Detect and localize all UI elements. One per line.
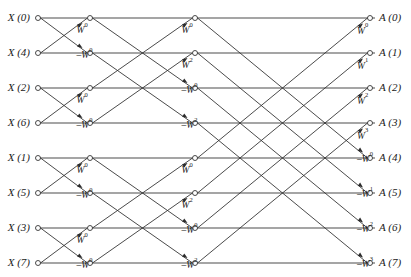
output-label-6: A (6) xyxy=(378,221,401,234)
stage1-node-2 xyxy=(88,86,93,91)
input-node-6 xyxy=(36,226,41,231)
fft-butterfly-diagram: X (0)X (4)X (2)X (6)X (1)X (5)X (3)X (7)… xyxy=(0,0,411,277)
input-node-4 xyxy=(36,156,41,161)
input-label-1: X (4) xyxy=(7,46,31,59)
input-node-7 xyxy=(36,261,41,266)
input-node-0 xyxy=(36,16,41,21)
output-node-0 xyxy=(368,16,373,21)
stage3-weight-label-3: W3 xyxy=(357,126,368,141)
input-label-6: X (3) xyxy=(7,221,31,234)
input-node-2 xyxy=(36,86,41,91)
stage2-node-0 xyxy=(193,16,198,21)
input-node-5 xyxy=(36,191,41,196)
output-label-4: A (4) xyxy=(378,151,401,164)
stage2-node-5 xyxy=(193,191,198,196)
stage1-node-0 xyxy=(88,16,93,21)
output-label-7: A (7) xyxy=(378,256,401,269)
input-label-3: X (6) xyxy=(7,116,31,129)
stage3-weight-label-1: W1 xyxy=(357,56,368,71)
output-label-2: A (2) xyxy=(378,81,401,94)
stage2-arrowhead-2 xyxy=(182,78,187,83)
output-node-1 xyxy=(368,51,373,56)
stage2-weight-label-5: W2 xyxy=(182,195,193,210)
stage2-arrowhead-3 xyxy=(182,113,187,118)
stage2-weight-label-0: W0 xyxy=(182,20,193,35)
output-node-2 xyxy=(368,86,373,91)
output-node-3 xyxy=(368,121,373,126)
output-label-3: A (3) xyxy=(378,116,401,129)
output-label-1: A (1) xyxy=(378,46,401,59)
stage1-arrowhead-3 xyxy=(77,113,82,118)
input-node-3 xyxy=(36,121,41,126)
input-label-7: X (7) xyxy=(7,256,31,269)
stage1-node-4 xyxy=(88,156,93,161)
output-label-0: A (0) xyxy=(378,11,401,24)
stage1-arrowhead-7 xyxy=(77,253,82,258)
stage1-arrowhead-1 xyxy=(77,43,82,48)
input-label-4: X (1) xyxy=(7,151,31,164)
input-label-0: X (0) xyxy=(7,11,31,24)
stage2-weight-label-1: W2 xyxy=(182,55,193,70)
stage3-weight-label-0: W0 xyxy=(357,21,368,36)
stage1-arrowhead-5 xyxy=(77,183,82,188)
stage2-node-4 xyxy=(193,156,198,161)
stage2-arrowhead-6 xyxy=(182,218,187,223)
output-label-5: A (5) xyxy=(378,186,401,199)
signal-flow-graph: X (0)X (4)X (2)X (6)X (1)X (5)X (3)X (7)… xyxy=(0,0,411,277)
stage2-weight-label-4: W0 xyxy=(182,160,193,175)
input-label-5: X (5) xyxy=(7,186,31,199)
stage1-node-6 xyxy=(88,226,93,231)
stage2-node-1 xyxy=(193,51,198,56)
input-node-1 xyxy=(36,51,41,56)
input-label-2: X (2) xyxy=(7,81,31,94)
stage3-weight-label-2: W2 xyxy=(357,91,368,106)
stage2-arrowhead-7 xyxy=(182,253,187,258)
